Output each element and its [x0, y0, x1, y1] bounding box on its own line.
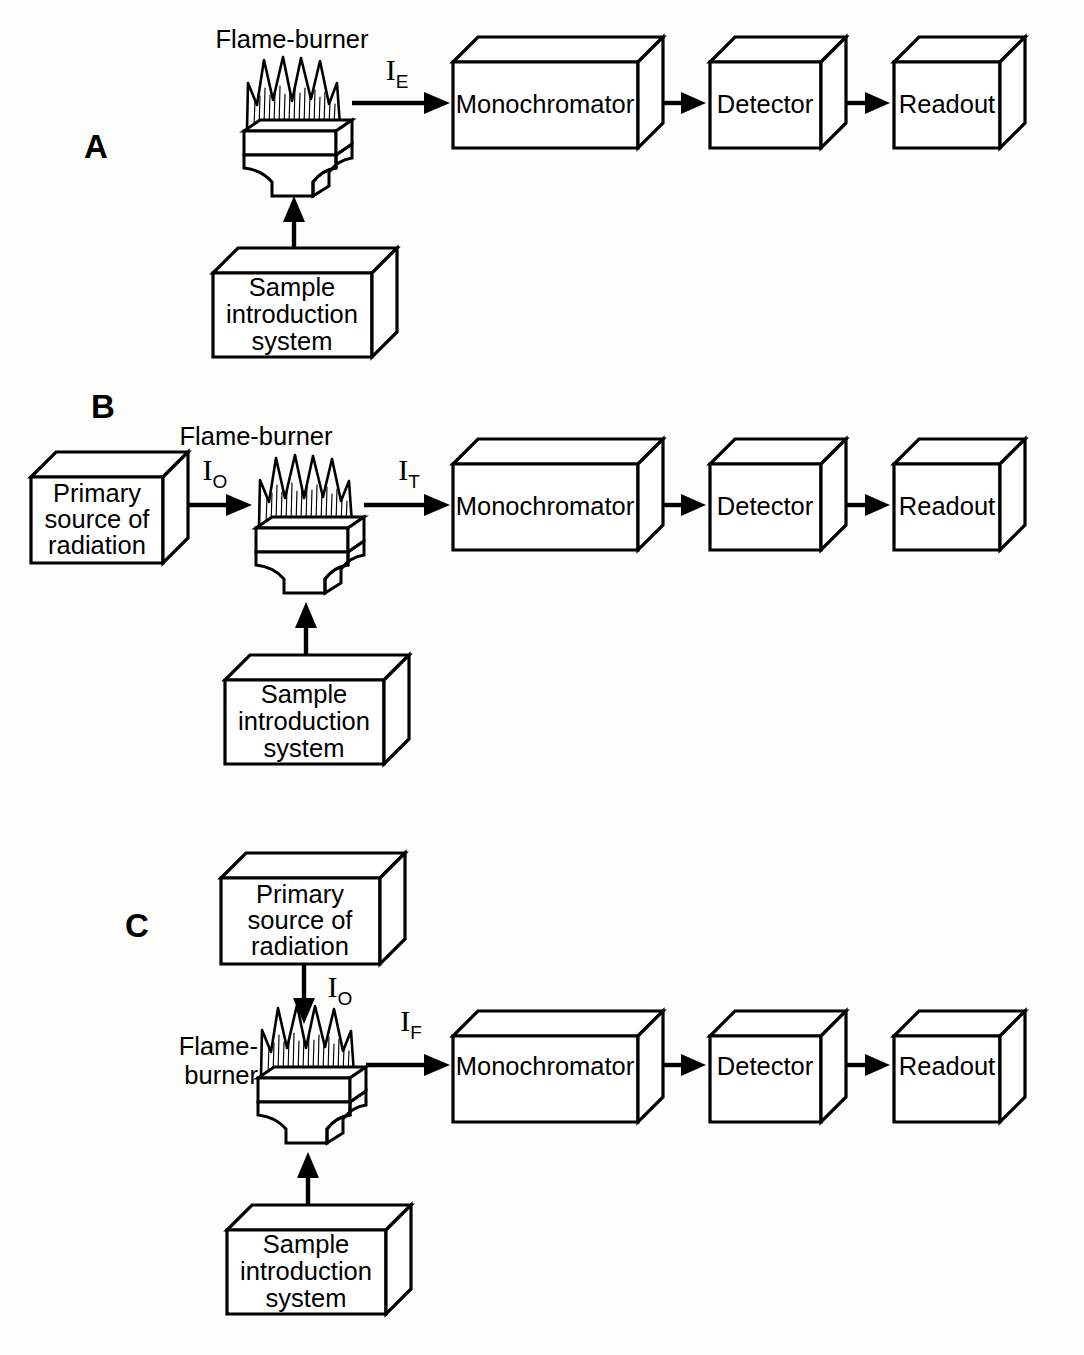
arrow-burner-to-monochromator-c: [366, 1054, 450, 1076]
flux-label-io-c: IO: [328, 970, 353, 1009]
arrow-mono-to-detector-c: [663, 1054, 706, 1076]
panel-a: A Flame-burner: [84, 25, 1025, 357]
box-label-detector-b: Detector: [717, 492, 814, 520]
box-label-primary-b-l2: source of: [45, 505, 151, 533]
flame-burner-caption-c-l2: burner: [184, 1061, 258, 1089]
burner-head-front-a: [244, 131, 336, 155]
box-label-primary-c-l3: radiation: [251, 932, 349, 960]
box-label-primary-c-l1: Primary: [256, 880, 344, 908]
arrow-burner-to-monochromator-b: [364, 494, 450, 516]
box-label-monochromator-b: Monochromator: [456, 492, 635, 520]
box-label-sample-c-l1: Sample: [263, 1230, 349, 1258]
box-label-detector-c: Detector: [717, 1052, 814, 1080]
box-label-monochromator-c: Monochromator: [456, 1052, 635, 1080]
box-primary-source-c: Primary source of radiation: [221, 853, 405, 964]
box-top-c-src: [221, 853, 405, 878]
box-top-a-mono: [453, 37, 663, 62]
box-top-b-src: [31, 452, 188, 477]
box-top-a-sample: [213, 248, 397, 273]
box-label-primary-b-l3: radiation: [48, 531, 146, 559]
box-label-primary-b-l1: Primary: [53, 479, 141, 507]
box-detector-b: Detector: [710, 439, 846, 550]
box-label-sample-b-l1: Sample: [261, 680, 347, 708]
burner-head-front-b: [256, 528, 348, 552]
box-readout-a: Readout: [894, 37, 1025, 148]
box-readout-b: Readout: [894, 439, 1025, 550]
box-detector-c: Detector: [710, 1011, 846, 1122]
box-label-detector-a: Detector: [717, 90, 814, 118]
box-top-b-sample: [225, 655, 409, 680]
flame-burner-caption-a: Flame-burner: [215, 25, 369, 53]
box-readout-c: Readout: [894, 1011, 1025, 1122]
figure-canvas: A Flame-burner: [0, 0, 1084, 1355]
box-monochromator-b: Monochromator: [453, 439, 663, 550]
box-top-c-mono: [453, 1011, 663, 1036]
arrow-burner-to-monochromator-a: [352, 92, 450, 114]
block-diagram-svg: A Flame-burner: [0, 0, 1084, 1355]
panel-letter-c: C: [125, 907, 149, 944]
box-sample-introduction-a: Sample introduction system: [213, 248, 397, 357]
arrow-detector-to-readout-c: [846, 1054, 890, 1076]
box-label-monochromator-a: Monochromator: [456, 90, 635, 118]
box-detector-a: Detector: [710, 37, 846, 148]
arrow-mono-to-detector-a: [663, 92, 706, 114]
flux-label-if: IF: [400, 1004, 422, 1043]
flame-burner-a: [244, 57, 352, 196]
box-top-b-mono: [453, 439, 663, 464]
flux-label-ie: IE: [386, 53, 409, 92]
flame-burner-c: [258, 1005, 366, 1143]
box-label-sample-a-l2: introduction: [226, 300, 358, 328]
box-sample-introduction-c: Sample introduction system: [227, 1205, 411, 1314]
panel-c: C Primary source of radiation IO Flame- …: [125, 853, 1025, 1314]
arrow-detector-to-readout-a: [846, 92, 890, 114]
box-label-sample-b-l2: introduction: [238, 707, 370, 735]
box-top-c-sample: [227, 1205, 411, 1230]
flame-burner-b: [256, 455, 364, 593]
flame-burner-caption-c-l1: Flame-: [179, 1032, 258, 1060]
box-label-primary-c-l2: source of: [248, 906, 354, 934]
box-sample-introduction-b: Sample introduction system: [225, 655, 409, 764]
box-monochromator-c: Monochromator: [453, 1011, 663, 1122]
box-primary-source-b: Primary source of radiation: [31, 452, 188, 563]
box-label-sample-c-l2: introduction: [240, 1257, 372, 1285]
box-label-readout-b: Readout: [899, 492, 995, 520]
arrow-source-to-burner-b: [188, 494, 252, 516]
flux-label-it: IT: [398, 453, 420, 492]
box-label-sample-c-l3: system: [266, 1284, 347, 1312]
arrow-detector-to-readout-b: [846, 494, 890, 516]
box-label-sample-a-l1: Sample: [249, 273, 335, 301]
box-monochromator-a: Monochromator: [453, 37, 663, 148]
flux-label-io-b: IO: [203, 453, 228, 492]
box-label-sample-b-l3: system: [264, 734, 345, 762]
flame-burner-caption-b: Flame-burner: [179, 422, 333, 450]
panel-letter-b: B: [91, 388, 115, 425]
box-label-readout-c: Readout: [899, 1052, 995, 1080]
panel-b: B Flame-burner Primary source of radiati…: [31, 388, 1025, 764]
panel-letter-a: A: [84, 128, 108, 165]
arrow-mono-to-detector-b: [663, 494, 706, 516]
box-label-readout-a: Readout: [899, 90, 995, 118]
box-label-sample-a-l3: system: [252, 327, 333, 355]
burner-head-front-c: [258, 1078, 350, 1102]
